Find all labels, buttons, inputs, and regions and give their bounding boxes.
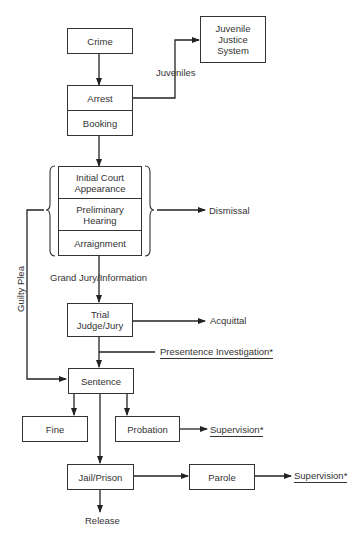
probation-label: Probation: [116, 417, 179, 441]
connector-lines: [0, 0, 362, 539]
arraignment-label: Arraignment: [59, 230, 141, 255]
fine-box: Fine: [22, 416, 88, 442]
sentence-box: Sentence: [68, 368, 134, 394]
crime-label: Crime: [68, 29, 132, 53]
probation-box: Probation: [115, 416, 180, 442]
parole-box: Parole: [189, 464, 255, 490]
jail-prison-label: Jail/Prison: [68, 465, 133, 489]
trial-label: Trial Judge/Jury: [68, 304, 132, 336]
fine-label: Fine: [23, 417, 87, 441]
supervision-parole-label: Supervision*: [294, 470, 347, 483]
juvenile-justice-label: Juvenile Justice System: [201, 17, 265, 62]
guilty-plea-label: Guilty Plea: [15, 266, 26, 312]
release-label: Release: [85, 515, 120, 526]
preliminary-hearing-label: Preliminary Hearing: [59, 198, 141, 230]
grand-jury-label: Grand Jury/Information: [50, 272, 147, 283]
booking-label: Booking: [68, 110, 132, 135]
arrest-booking-box: Arrest Booking: [67, 85, 133, 136]
crime-box: Crime: [67, 28, 133, 54]
juveniles-label: Juveniles: [156, 67, 196, 78]
arrest-label: Arrest: [68, 86, 132, 110]
pretrial-box: Initial Court Appearance Preliminary Hea…: [58, 166, 142, 256]
initial-court-label: Initial Court Appearance: [59, 167, 141, 198]
acquittal-label: Acquittal: [210, 315, 246, 326]
trial-box: Trial Judge/Jury: [67, 303, 133, 337]
dismissal-label: Dismissal: [209, 205, 250, 216]
sentence-label: Sentence: [69, 369, 133, 393]
supervision-probation-label: Supervision*: [210, 424, 263, 437]
parole-label: Parole: [190, 465, 254, 489]
jail-prison-box: Jail/Prison: [67, 464, 134, 490]
presentence-label: Presentence Investigation*: [160, 346, 273, 359]
juvenile-justice-box: Juvenile Justice System: [200, 16, 266, 63]
